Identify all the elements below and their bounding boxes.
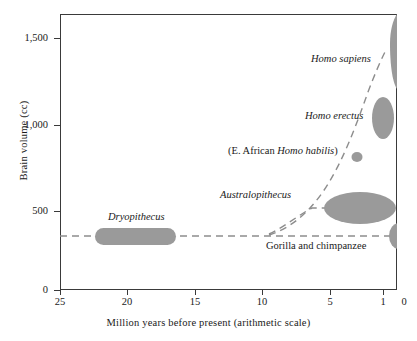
xtick-mark-10 (262, 290, 263, 295)
ytick-mark-1500 (54, 38, 60, 39)
xtick-mark-20 (127, 290, 128, 295)
xtick-mark-5 (330, 290, 331, 295)
label-homo-habilis-species: Homo habilis (277, 145, 334, 156)
blob-homo-habilis (352, 152, 363, 162)
xtick-label-5: 5 (318, 296, 342, 307)
label-homo-sapiens: Homo sapiens (311, 53, 371, 64)
label-homo-habilis-suffix: ) (334, 145, 338, 156)
label-homo-habilis: (E. African Homo habilis) (228, 145, 338, 156)
blob-australopithecus (324, 192, 396, 224)
label-homo-erectus: Homo erectus (305, 110, 363, 121)
xtick-mark-25 (60, 290, 61, 295)
label-gorilla-chimpanzee: Gorilla and chimpanzee (266, 240, 366, 251)
blob-homo-sapiens (390, 14, 397, 89)
blob-gorilla-chimpanzee (389, 223, 397, 249)
ytick-label-1500: 1,500 (8, 32, 48, 43)
brain-volume-evolution-chart: 1,500 1,000 500 0 25 20 15 10 5 1 0 Mill… (0, 0, 417, 341)
x-axis-title: Million years before present (arithmetic… (0, 317, 417, 328)
ytick-label-0: 0 (8, 284, 48, 295)
xtick-label-15: 15 (183, 296, 207, 307)
ytick-mark-1000 (54, 125, 60, 126)
blob-dryopithecus (95, 228, 176, 245)
xtick-label-10: 10 (250, 296, 274, 307)
y-axis-title: Brain volume (cc) (18, 66, 29, 216)
xtick-label-25: 25 (48, 296, 72, 307)
xtick-mark-1 (383, 290, 384, 295)
xtick-label-0: 0 (392, 296, 416, 307)
xtick-label-20: 20 (115, 296, 139, 307)
xtick-mark-15 (195, 290, 196, 295)
label-homo-habilis-prefix: (E. African (228, 145, 277, 156)
blob-homo-erectus (372, 97, 394, 139)
ytick-mark-500 (54, 211, 60, 212)
label-dryopithecus: Dryopithecus (108, 211, 165, 222)
label-australopithecus: Australopithecus (220, 189, 291, 200)
